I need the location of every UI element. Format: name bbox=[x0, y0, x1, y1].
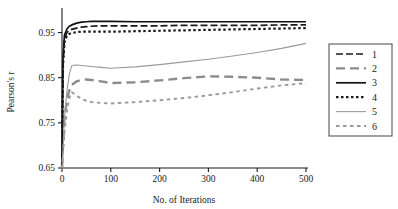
legend-label-6: 6 bbox=[372, 121, 377, 132]
pearsons-r-line-chart: 0.650.750.850.950100200300400500 No. of … bbox=[0, 0, 398, 209]
legend-label-2: 2 bbox=[372, 63, 377, 74]
series-line-1 bbox=[62, 25, 306, 167]
y-tick-label: 0.95 bbox=[38, 28, 55, 38]
x-axis-title: No. of Iterations bbox=[153, 195, 216, 205]
x-tick-label: 500 bbox=[299, 174, 314, 184]
chart-legend: 123456 bbox=[329, 44, 392, 136]
x-tick-label: 200 bbox=[152, 174, 167, 184]
legend-label-3: 3 bbox=[372, 77, 377, 88]
legend-border bbox=[329, 44, 392, 136]
x-tick-label: 0 bbox=[60, 174, 65, 184]
series-line-6 bbox=[62, 83, 306, 168]
legend-label-5: 5 bbox=[372, 106, 377, 117]
series-line-2 bbox=[62, 76, 306, 167]
legend-label-1: 1 bbox=[372, 49, 377, 60]
y-tick-label: 0.75 bbox=[38, 118, 55, 128]
x-tick-label: 300 bbox=[201, 174, 216, 184]
y-tick-label: 0.85 bbox=[38, 73, 55, 83]
y-tick-label: 0.65 bbox=[38, 163, 55, 173]
x-tick-label: 400 bbox=[250, 174, 265, 184]
legend-label-4: 4 bbox=[372, 92, 377, 103]
chart-tick-labels: 0.650.750.850.950100200300400500 bbox=[38, 28, 313, 184]
y-axis-title: Pearson's r bbox=[6, 71, 16, 113]
chart-figure: 0.650.750.850.950100200300400500 No. of … bbox=[0, 0, 398, 209]
x-tick-label: 100 bbox=[104, 174, 119, 184]
chart-series bbox=[62, 21, 306, 168]
series-line-5 bbox=[62, 43, 306, 168]
series-line-3 bbox=[62, 21, 306, 166]
